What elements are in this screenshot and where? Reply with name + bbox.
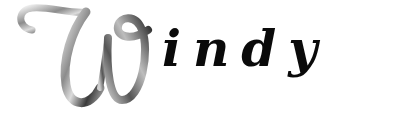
- script-w-initial: [10, 0, 160, 115]
- logo-text-rest: indy: [162, 24, 329, 74]
- windy-logo: indy: [0, 0, 401, 120]
